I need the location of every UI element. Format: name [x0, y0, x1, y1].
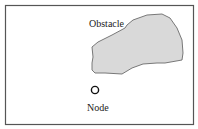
node-label: Node [87, 102, 109, 113]
node-circle [91, 86, 98, 93]
obstacle-label: Obstacle [89, 18, 125, 29]
diagram-canvas: Obstacle Node [0, 0, 198, 129]
